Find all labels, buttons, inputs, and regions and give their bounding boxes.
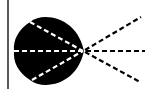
lens-ray-diagram (0, 0, 145, 89)
